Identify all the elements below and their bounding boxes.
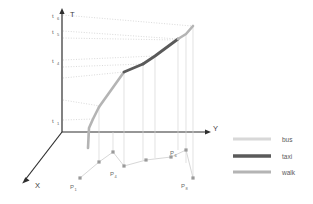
ground-point-label-p1: P 1 — [70, 184, 78, 192]
projection-line-t3 — [63, 72, 124, 78]
x-axis-label: X — [35, 181, 40, 190]
tick-t6: t 6 — [52, 13, 60, 21]
ground-point-marker-p3 — [111, 150, 114, 153]
tick-t4-sub: 4 — [57, 61, 60, 66]
trajectory-segment-taxi-1 — [124, 64, 143, 72]
legend: bus taxi walk — [233, 136, 296, 176]
time-tick-labels: t 6 t 5 t 4 t 1 — [52, 13, 60, 126]
trajectory-segment-taxi-2 — [143, 39, 178, 64]
y-axis-label: Y — [213, 124, 218, 133]
ground-point-marker-p1 — [78, 176, 81, 179]
projection-line-t1 — [63, 119, 94, 120]
ground-point-label-p4: P 4 — [110, 171, 118, 179]
trajectory — [88, 26, 193, 148]
legend-label-walk: walk — [281, 169, 296, 176]
tick-t6-text: t — [52, 13, 54, 19]
ground-point-markers — [78, 148, 194, 179]
trajectory-segment-walk-1 — [88, 107, 99, 148]
tick-t5: t 5 — [52, 29, 60, 37]
legend-label-bus: bus — [282, 136, 293, 143]
ground-point-label-p8-sub: 8 — [186, 186, 189, 191]
projection-line-t5b — [63, 38, 177, 40]
t-axis-label: T — [70, 10, 75, 19]
projection-line-t4b — [63, 64, 143, 67]
ground-point-marker-p8 — [191, 176, 194, 179]
projection-line-t4 — [63, 56, 155, 60]
ground-point-label-p8: P 8 — [181, 183, 189, 191]
ground-point-marker-p4 — [122, 164, 125, 167]
legend-item-walk[interactable]: walk — [233, 169, 296, 176]
projection-line-t6 — [63, 15, 192, 26]
ground-point-label-p6-text: P — [170, 150, 174, 156]
ground-point-label-p1-text: P — [70, 184, 74, 190]
tick-t1: t 1 — [52, 118, 60, 126]
tick-t6-sub: 6 — [57, 16, 60, 21]
tick-t1-sub: 1 — [57, 121, 60, 126]
ground-point-marker-p2 — [97, 160, 100, 163]
tick-t1-text: t — [52, 118, 54, 124]
t-axis-arrow — [59, 8, 64, 14]
tick-t4-text: t — [52, 58, 54, 64]
ground-point-marker-p7 — [184, 148, 187, 151]
ground-point-marker-p5 — [144, 158, 147, 161]
tick-t4: t 4 — [52, 58, 60, 66]
legend-item-taxi[interactable]: taxi — [233, 153, 292, 160]
projection-lines — [63, 15, 192, 120]
x-axis — [25, 132, 62, 180]
tick-t5-text: t — [52, 29, 54, 35]
projection-line-t2 — [63, 100, 100, 106]
y-axis-arrow — [205, 129, 211, 134]
spacetime-diagram: T Y X t 6 t 5 t 4 t 1 — [0, 0, 313, 204]
ground-point-label-p4-text: P — [110, 171, 114, 177]
ground-point-label-p4-sub: 4 — [115, 174, 118, 179]
trajectory-segment-walk-2 — [99, 72, 124, 107]
ground-point-label-p1-sub: 1 — [75, 187, 78, 192]
trajectory-segment-walk-3 — [178, 26, 193, 39]
projection-line-t5 — [63, 31, 178, 39]
legend-label-taxi: taxi — [282, 153, 292, 160]
x-axis-arrow — [22, 177, 29, 183]
tick-t5-sub: 5 — [57, 32, 60, 37]
legend-item-bus[interactable]: bus — [233, 136, 293, 143]
ground-point-label-p8-text: P — [181, 183, 185, 189]
